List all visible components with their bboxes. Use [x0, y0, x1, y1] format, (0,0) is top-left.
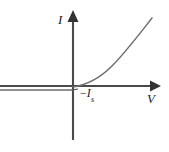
current-axis-arrowhead: [68, 10, 79, 22]
diode-iv-characteristic-figure: I V −Is: [0, 0, 169, 152]
saturation-current-label: −Is: [80, 87, 94, 102]
iv-plot-canvas: [0, 0, 169, 152]
saturation-current-subscript: s: [91, 95, 94, 104]
voltage-axis-label: V: [147, 92, 155, 105]
saturation-minus-sign: −: [80, 86, 87, 100]
diode-forward-curve: [73, 18, 152, 87]
voltage-axis-arrowhead: [150, 81, 161, 92]
current-axis-label: I: [58, 13, 62, 26]
